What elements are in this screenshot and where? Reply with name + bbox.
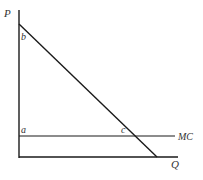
quantity-axis-label: Q (171, 158, 179, 170)
diagram-canvas: P b a c MC Q (0, 0, 203, 180)
price-axis-label: P (3, 7, 11, 19)
demand-curve (19, 24, 157, 157)
point-a-label: a (21, 124, 26, 135)
point-b-label: b (21, 31, 26, 42)
mc-label: MC (177, 131, 193, 142)
point-c-label: c (121, 124, 126, 135)
